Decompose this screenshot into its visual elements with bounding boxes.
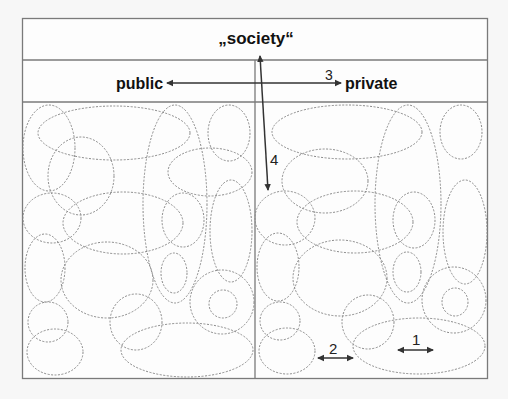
private-label: private	[345, 75, 398, 92]
society-label: „society“	[218, 29, 294, 48]
public-label: public	[116, 75, 163, 92]
arrow-2-label: 2	[329, 340, 337, 357]
society-diagram: „society“ public private 3 4 2 1	[0, 0, 508, 399]
arrow-3-label: 3	[325, 67, 333, 83]
arrow-1-label: 1	[412, 331, 420, 348]
arrow-4-label: 4	[270, 151, 278, 168]
